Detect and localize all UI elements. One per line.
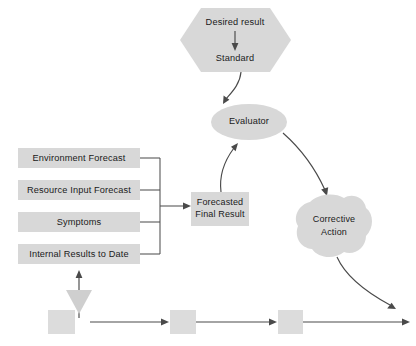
- connector-corrective-to-process: [337, 257, 396, 309]
- process-arrow-1-head: [161, 319, 169, 326]
- process-step-2-shape: [170, 310, 196, 334]
- standard-to-evaluator-path: [226, 72, 241, 99]
- process-chain-arrows: [90, 319, 410, 326]
- corrective-action-line2-label: Action: [321, 227, 347, 237]
- process-arrow-2-head: [269, 319, 277, 326]
- input-box-symptoms[interactable]: Symptoms: [18, 212, 140, 232]
- hexagon-line1-label: Desired result: [206, 17, 265, 27]
- process-step-3-shape: [278, 310, 303, 334]
- node-corrective-action[interactable]: Corrective Action: [296, 195, 372, 258]
- inputs-bracket: [140, 158, 191, 254]
- evaluator-label: Evaluator: [229, 116, 269, 126]
- forecast-to-evaluator-path: [221, 148, 234, 192]
- internal-results-label: Internal Results to Date: [29, 249, 129, 259]
- input-box-resource-input-forecast[interactable]: Resource Input Forecast: [18, 180, 140, 200]
- flowchart-diagram: Desired result Standard Evaluator: [0, 0, 416, 346]
- evaluator-to-corrective-path: [283, 133, 325, 190]
- input-box-internal-results-to-date[interactable]: Internal Results to Date: [18, 244, 140, 264]
- process-step-3[interactable]: [278, 310, 303, 334]
- process-arrow-3-head: [402, 319, 410, 326]
- node-standard-hexagon[interactable]: Desired result Standard: [180, 8, 291, 72]
- node-forecasted-final-result[interactable]: Forecasted Final Result: [191, 192, 249, 226]
- forecasted-final-result-line1-label: Forecasted: [197, 197, 244, 207]
- process-step-1[interactable]: [48, 310, 75, 334]
- flowchart-canvas: Desired result Standard Evaluator: [0, 0, 416, 346]
- corrective-action-blob-shape: [296, 195, 372, 258]
- input-box-environment-forecast[interactable]: Environment Forecast: [18, 148, 140, 168]
- environment-forecast-label: Environment Forecast: [33, 153, 126, 163]
- connector-evaluator-to-corrective: [283, 133, 328, 196]
- process-step-1-shape: [48, 310, 75, 334]
- node-evaluator[interactable]: Evaluator: [211, 104, 287, 140]
- forecasted-final-result-line2-label: Final Result: [195, 209, 245, 219]
- corrective-action-line1-label: Corrective: [313, 214, 356, 224]
- connector-standard-to-evaluator: [223, 72, 241, 104]
- corrective-to-process-path: [337, 257, 390, 305]
- symptoms-label: Symptoms: [57, 217, 102, 227]
- hexagon-line2-label: Standard: [216, 53, 255, 63]
- bracket-outlet-arrowhead: [183, 203, 191, 210]
- process-step-2[interactable]: [170, 310, 196, 334]
- connector-forecast-to-evaluator: [221, 143, 238, 192]
- resource-input-forecast-label: Resource Input Forecast: [27, 185, 131, 195]
- process-to-internal-results-arrowhead: [76, 270, 83, 278]
